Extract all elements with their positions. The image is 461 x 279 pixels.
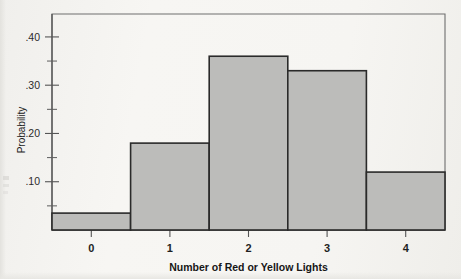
x-axis-tick-label: 2 [245, 242, 251, 254]
y-axis-tick-label: .20 [25, 127, 40, 139]
histogram-bar [288, 71, 367, 230]
x-axis-tick-label: 4 [403, 242, 410, 254]
y-axis [45, 14, 59, 230]
x-axis-tick-label: 0 [88, 242, 94, 254]
histogram-bar [52, 213, 131, 230]
histogram-bar [366, 172, 445, 230]
histogram-bar [209, 56, 288, 230]
x-axis-tick-labels: 01234 [88, 242, 409, 254]
y-axis-tick-label: .10 [25, 175, 40, 187]
x-axis-tick-label: 3 [324, 242, 330, 254]
bar-series [52, 56, 445, 230]
y-axis-tick-label: .40 [25, 31, 40, 43]
chart-svg: .10.20.30.40 01234 Number of Red or Yell… [0, 0, 461, 279]
y-axis-tick-labels: .10.20.30.40 [25, 31, 40, 188]
histogram-bar [131, 143, 210, 230]
histogram-chart: .10.20.30.40 01234 Number of Red or Yell… [0, 0, 461, 279]
x-axis-title: Number of Red or Yellow Lights [169, 261, 328, 273]
y-axis-tick-label: .30 [25, 79, 40, 91]
y-axis-title: Probability [16, 107, 27, 154]
x-axis-tick-label: 1 [167, 242, 173, 254]
